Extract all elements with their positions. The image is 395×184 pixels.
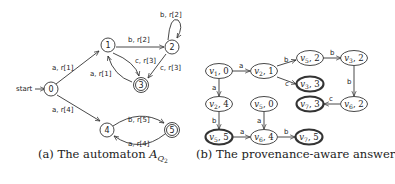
edge-label: b [330,49,335,57]
edge-label-1-2: b, r[2] [128,36,150,44]
node-v5-2: v5, 2 [297,51,324,66]
caption-b: (b) The provenance-aware answer [196,147,395,161]
edge-label: b [284,128,289,136]
svg-text:v6, 2: v6, 2 [344,99,363,110]
edge-label-3-1: a, r[1] [90,70,112,78]
state-2: 2 [165,40,179,54]
state-4: 4 [100,123,114,137]
state-0: 0 [44,82,58,96]
svg-text:v6, 4: v6, 4 [254,132,273,143]
caption-a: (a) The automaton AQ2 [38,147,168,164]
node-v5-0: v5, 0 [251,97,278,112]
svg-text:v1, 0: v1, 0 [209,66,228,77]
edge-label: a [240,128,244,136]
edge-label: b [284,56,289,64]
svg-text:v3, 2: v3, 2 [344,53,363,64]
edge-label: a [239,62,243,70]
node-v7-3-accepting: v7, 3 [297,97,324,112]
node-v7-5-accepting: v7, 5 [296,130,323,145]
edge-label-0-1: a, r[1] [52,64,74,72]
node-v2-1: v2, 1 [251,64,278,79]
state-3-accepting: 3 [134,78,149,93]
caption-a-subsubscript: 2 [164,157,168,164]
edge-2-2-loop [168,19,181,40]
svg-text:v2, 4: v2, 4 [209,99,228,110]
node-v5-5-accepting: v5, 5 [206,130,233,145]
edge-label-2-3: c, r[3] [160,64,181,72]
edge-label: a [257,117,261,125]
node-v3-3-accepting: v3, 3 [297,77,324,92]
edge-label: c [285,80,289,88]
node-v1-0: v1, 0 [206,64,233,79]
svg-text:5: 5 [169,126,174,135]
svg-text:v7, 3: v7, 3 [300,99,319,110]
automaton-diagram: start a, r[1] a, r[4] b, r[2] c, r[3] a,… [16,11,182,148]
edge-label-0-4: a, r[4] [52,106,74,114]
svg-text:v7, 5: v7, 5 [299,132,318,143]
svg-text:4: 4 [104,126,109,135]
edge-label: a [212,84,216,92]
node-v2-4: v2, 4 [206,97,233,112]
svg-text:v5, 5: v5, 5 [209,132,228,143]
edge-label-2-2: b, r[2] [160,11,182,19]
caption-a-text: (a) The automaton [38,147,149,161]
provenance-graph: a b c b b c a b a a b v1, 0 v2, 1 [206,49,368,145]
start-label: start [16,85,33,93]
svg-text:2: 2 [169,43,174,52]
state-5-accepting: 5 [165,123,180,138]
node-v6-2: v6, 2 [341,97,368,112]
svg-text:1: 1 [105,41,110,50]
node-v6-4: v6, 4 [251,130,278,145]
edge-label: b [347,78,352,86]
svg-text:v5, 2: v5, 2 [300,53,319,64]
edge-label: b [212,117,217,125]
edge-label-1-3: c, r[3] [135,57,156,65]
state-1: 1 [101,38,115,52]
svg-text:0: 0 [48,85,53,94]
svg-text:3: 3 [138,81,143,90]
svg-text:v5, 0: v5, 0 [254,99,273,110]
edge-label-4-5: b, r[5] [128,116,150,124]
edge-3-1 [108,56,132,82]
node-v3-2: v3, 2 [341,51,368,66]
edge-label: c [329,95,333,103]
caption-a-symbol: A [149,147,157,161]
svg-text:v2, 1: v2, 1 [254,66,273,77]
svg-text:v3, 3: v3, 3 [300,79,319,90]
